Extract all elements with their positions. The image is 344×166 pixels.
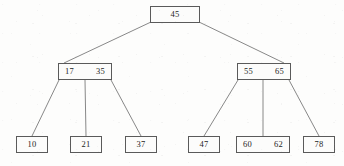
node-internal-left-key-0: 17 — [59, 67, 80, 76]
node-leaf-1[interactable]: 10 — [16, 136, 48, 153]
edge-internal-left-to-leaf-1 — [32, 80, 59, 136]
node-leaf-2[interactable]: 21 — [70, 136, 102, 153]
node-leaf-6-key-0: 78 — [315, 140, 324, 149]
node-root[interactable]: 45 — [150, 6, 200, 23]
node-internal-right[interactable]: 55 65 — [237, 63, 291, 80]
node-leaf-4-key-0: 47 — [200, 140, 209, 149]
edge-internal-left-to-leaf-3 — [111, 80, 141, 136]
node-leaf-3-key-0: 37 — [137, 140, 146, 149]
node-leaf-4[interactable]: 47 — [188, 136, 220, 153]
edge-internal-right-to-leaf-6 — [289, 80, 319, 136]
node-internal-left-key-1: 35 — [90, 67, 111, 76]
edge-internal-left-to-leaf-2 — [85, 80, 86, 136]
node-internal-right-key-0: 55 — [238, 67, 259, 76]
edge-internal-right-to-leaf-4 — [204, 80, 238, 136]
btree-diagram-canvas: 45 17 35 55 65 10 21 37 47 60 62 78 — [0, 0, 344, 166]
node-internal-left[interactable]: 17 35 — [58, 63, 112, 80]
tree-edges-layer — [0, 0, 344, 166]
edge-root-to-internal-right — [199, 22, 284, 63]
edge-root-to-internal-left — [64, 22, 151, 63]
node-leaf-5[interactable]: 60 62 — [236, 136, 290, 153]
node-leaf-5-key-1: 62 — [268, 140, 289, 149]
node-leaf-2-key-0: 21 — [82, 140, 91, 149]
node-root-key-0: 45 — [171, 10, 180, 19]
node-leaf-6[interactable]: 78 — [303, 136, 335, 153]
node-leaf-5-key-0: 60 — [237, 140, 258, 149]
node-leaf-1-key-0: 10 — [28, 140, 37, 149]
node-leaf-3[interactable]: 37 — [125, 136, 157, 153]
node-internal-right-key-1: 65 — [269, 67, 290, 76]
